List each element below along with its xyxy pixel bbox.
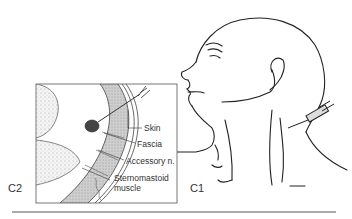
label-sternomastoid-2: muscle [114,184,141,193]
syringe-icon [288,101,334,128]
panel-label-c1: C1 [190,182,204,194]
label-skin: Skin [144,124,161,133]
head-illustration [177,18,347,186]
diagram-canvas [0,0,352,219]
label-sternomastoid-1: Sternomastoid [114,174,169,183]
label-accessory-nerve: Accessory n. [126,157,175,166]
panel-label-c2: C2 [8,182,22,194]
label-fascia: Fascia [137,140,162,149]
